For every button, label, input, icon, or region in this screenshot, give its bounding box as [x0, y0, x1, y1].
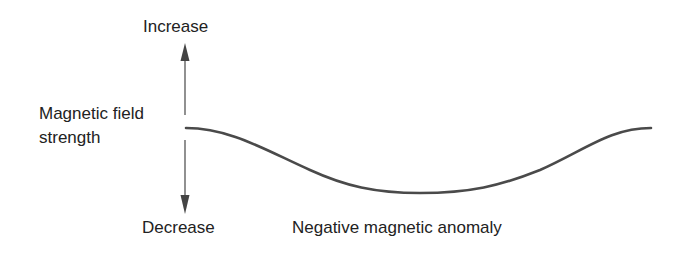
decrease-label: Decrease [142, 218, 215, 238]
anomaly-curve [186, 128, 651, 193]
axis-label-line1: Magnetic field [39, 104, 144, 124]
anomaly-caption: Negative magnetic anomaly [292, 218, 502, 238]
decrease-arrow [181, 140, 190, 214]
increase-arrow [181, 43, 190, 115]
axis-label-line2: strength [39, 128, 100, 148]
increase-label: Increase [143, 17, 208, 37]
